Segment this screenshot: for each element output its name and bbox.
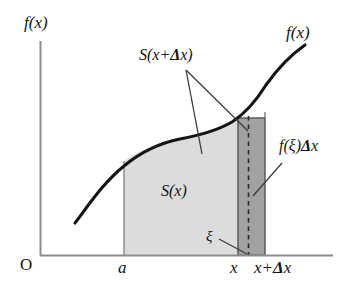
x-tick-pre: x+ (254, 258, 273, 277)
label-xi: ξ (206, 229, 212, 244)
origin-label: O (20, 256, 32, 273)
label-s-x: S(x) (161, 183, 187, 199)
y-axis-label: f(x) (24, 14, 48, 31)
label-s-total-post: x) (180, 46, 192, 63)
delta-glyph: Δ (273, 258, 284, 277)
x-tick-label-x: x (230, 259, 238, 276)
curve-label: f(x) (286, 24, 310, 41)
label-f-xi-delta-x: f(ξ)Δx (279, 138, 318, 154)
x-tick-label-a: a (118, 259, 127, 276)
label-f-xi-post: x (311, 137, 318, 154)
x-tick-label-x-plus-delta-x: x+Δx (254, 259, 291, 276)
label-s-x-plus-delta-x: S(x+Δx) (139, 47, 193, 63)
label-f-xi-pre: f(ξ) (279, 137, 301, 154)
delta-glyph: Δ (301, 137, 311, 154)
delta-glyph: Δ (170, 46, 180, 63)
x-tick-post: x (284, 258, 292, 277)
label-s-total-pre: S(x+ (139, 46, 170, 63)
